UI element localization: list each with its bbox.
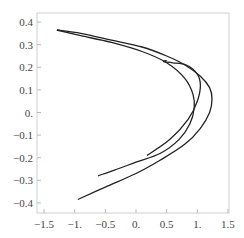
chart: −1.5−1.−0.50.0.51.1.5 0.40.30.20.10.−0.1… xyxy=(0,0,244,238)
y-tick-label: 0.4 xyxy=(19,16,33,28)
x-tick-label: 1.5 xyxy=(221,218,235,230)
y-tick-label: 0.1 xyxy=(19,84,33,96)
y-tick-label: −0.3 xyxy=(13,174,33,186)
x-tick-label: −0.5 xyxy=(95,218,115,230)
y-tick-label: 0.2 xyxy=(19,61,33,73)
y-tick-label: 0. xyxy=(25,107,34,119)
x-tick-label: 1. xyxy=(193,218,202,230)
x-tick-label: 0.5 xyxy=(160,218,174,230)
x-tick-label: 0. xyxy=(132,218,141,230)
y-tick-label: −0.2 xyxy=(13,152,33,164)
plot-frame xyxy=(37,13,229,213)
x-tick-label: −1.5 xyxy=(34,218,54,230)
y-tick-label: 0.3 xyxy=(19,39,33,51)
x-tick-label: −1. xyxy=(67,218,82,230)
y-tick-label: −0.1 xyxy=(13,129,33,141)
y-tick-label: −0.4 xyxy=(13,197,33,209)
